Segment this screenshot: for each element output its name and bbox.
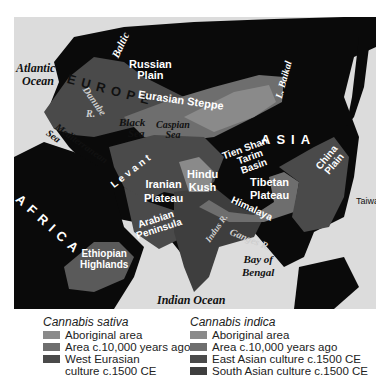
label-atlantic-ocean: AtlanticOcean [16, 62, 55, 87]
label-taiwan: Taiwan [356, 197, 376, 206]
legend-swatch-east-asian [190, 355, 207, 363]
legend-swatch-area-10000 [190, 343, 207, 351]
legend-label: West Eurasian culture c.1500 CE [65, 353, 165, 377]
label-bay-of-bengal: Bay ofBengal [242, 254, 274, 278]
legend-item: South Asian culture c.1500 CE [190, 365, 368, 377]
legend-label: Area c.10,000 years ago [65, 341, 190, 353]
label-black-sea: BlackSea [119, 117, 145, 139]
southeast-asia-islands [294, 257, 359, 309]
label-indian-ocean: Indian Ocean [157, 294, 225, 306]
legend-item: East Asian culture c.1500 CE [190, 353, 368, 365]
legend-cannabis-sativa: Cannabis sativa Aboriginal area Area c.1… [43, 316, 190, 377]
legend-item: Area c.10,000 years ago [190, 341, 368, 353]
legend-swatch-aboriginal [190, 331, 207, 339]
legend-item: Area c.10,000 years ago [43, 341, 190, 353]
legend-swatch-area-10000 [43, 343, 60, 351]
label-caspian-sea: CaspianSea [156, 120, 190, 140]
legend-swatch-aboriginal [43, 331, 60, 339]
legend-cannabis-indica: Cannabis indica Aboriginal area Area c.1… [190, 316, 368, 377]
legend-indica-title: Cannabis indica [190, 316, 368, 328]
label-hindu-kush: HinduKush [187, 169, 218, 193]
legend-sativa-title: Cannabis sativa [43, 316, 190, 328]
legend-item: West Eurasian culture c.1500 CE [43, 353, 190, 377]
label-asia: ASIA [261, 133, 316, 146]
label-russian-plain: RussianPlain [129, 59, 172, 81]
cannabis-distribution-map: AtlanticOcean Baltic EUROPE RussianPlain… [14, 17, 376, 309]
legend-swatch-west-eurasian [43, 355, 60, 363]
legend-label: East Asian culture c.1500 CE [212, 353, 361, 365]
legend-item: Aboriginal area [190, 329, 368, 341]
label-tibetan-plateau: TibetanPlateau [250, 177, 289, 201]
legend-swatch-south-asian [190, 367, 207, 375]
legend-label: South Asian culture c.1500 CE [212, 365, 368, 377]
legend-label: Aboriginal area [212, 329, 289, 341]
label-iranian-plateau: IranianPlateau [144, 179, 183, 204]
label-ethiopian-highlands: EthiopianHighlands [80, 249, 128, 270]
legend-label: Aboriginal area [65, 329, 142, 341]
legend-item: Aboriginal area [43, 329, 190, 341]
label-danube-r: R. [86, 109, 95, 119]
legend-label: Area c.10,000 years ago [212, 341, 337, 353]
